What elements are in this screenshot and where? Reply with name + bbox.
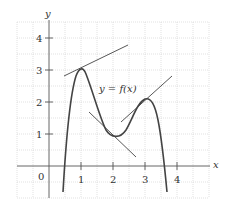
tangent-line-1: [64, 45, 128, 76]
origin-label: 0: [38, 171, 44, 182]
y-tick-2: 2: [36, 97, 42, 108]
y-tick-1: 1: [36, 129, 42, 140]
x-tick-3: 3: [142, 174, 148, 185]
x-tick-4: 4: [174, 174, 180, 185]
x-axis-label: x: [213, 159, 219, 170]
y-tick-3: 3: [36, 65, 42, 76]
x-tick-1: 1: [78, 174, 84, 185]
curve-label: y = f(x): [98, 83, 137, 94]
chart: y x 0 1 2 3 4 1 2 3 4 y = f(x): [0, 0, 236, 206]
y-tick-4: 4: [36, 33, 42, 44]
x-tick-2: 2: [110, 174, 116, 185]
tangent-lines: [64, 45, 172, 157]
grid: [17, 22, 209, 198]
y-axis-label: y: [44, 8, 51, 19]
